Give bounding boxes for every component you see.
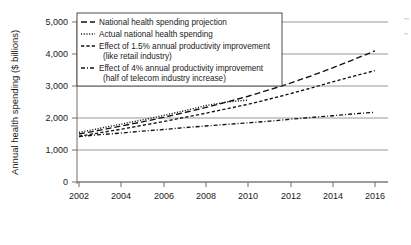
chart-figure: Annual health spending ($ billions) 5,00…: [0, 0, 411, 245]
y-tick-label-1000: 1,000: [45, 145, 68, 155]
x-tick-label-2014: 2014: [323, 191, 343, 201]
series-effect-4-percent-productivity: [79, 112, 375, 136]
y-tick-label-0: 0: [63, 177, 68, 187]
edge-artifact-2: [404, 33, 408, 34]
legend-label-telecom: Effect of 4% annual productivity improve…: [99, 64, 264, 73]
legend-label-retail: Effect of 1.5% annual productivity impro…: [99, 42, 271, 51]
x-tick-label-2012: 2012: [281, 191, 301, 201]
chart-legend: National health spending projection Actu…: [77, 13, 282, 86]
y-tick-label-2000: 2,000: [45, 113, 68, 123]
legend-label-telecom-sub: (half of telecom industry increase): [103, 74, 226, 83]
x-tick-label-2016: 2016: [365, 191, 385, 201]
y-tick-label-3000: 3,000: [45, 81, 68, 91]
edge-artifact-1: [404, 18, 409, 19]
x-tick-label-2004: 2004: [111, 191, 131, 201]
legend-label-actual: Actual national health spending: [99, 30, 213, 39]
y-axis-title: Annual health spending ($ billions): [9, 30, 20, 175]
y-tick-label-4000: 4,000: [45, 49, 68, 59]
x-tick-labels: 2002 2004 2006 2008 2010 2012 2014 2016: [69, 191, 385, 201]
y-tickmarks: [72, 22, 77, 182]
legend-label-retail-sub: (like retail industry): [103, 52, 172, 61]
x-tick-label-2002: 2002: [69, 191, 89, 201]
x-tick-label-2006: 2006: [154, 191, 174, 201]
series-actual-national-health-spending: [79, 100, 248, 132]
x-tick-label-2010: 2010: [238, 191, 258, 201]
y-tick-labels: 5,000 4,000 3,000 2,000 1,000 0: [45, 17, 68, 187]
page-edge-artifacts: [404, 18, 409, 34]
legend-label-projection: National health spending projection: [99, 18, 227, 27]
x-tick-label-2008: 2008: [196, 191, 216, 201]
y-tick-label-5000: 5,000: [45, 17, 68, 27]
line-chart: Annual health spending ($ billions) 5,00…: [0, 0, 411, 245]
x-tickmarks: [79, 182, 375, 187]
